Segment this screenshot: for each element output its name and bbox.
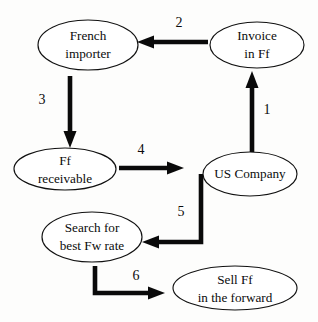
node-sell-ff-forward[interactable]: Sell Ff in the forward — [173, 266, 297, 310]
node-invoice-in-ff[interactable]: Invoice in Ff — [210, 22, 304, 68]
edge-2-step-label: 2 — [176, 15, 183, 30]
node-search-best-fw-rate-label-line1: Search for — [65, 220, 120, 235]
edge-6-step-label: 6 — [133, 268, 140, 283]
node-us-company-label-line1: US Company — [214, 166, 286, 181]
node-us-company[interactable]: US Company — [203, 152, 297, 196]
node-search-best-fw-rate-label-line2: best Fw rate — [60, 238, 125, 253]
node-french-importer-label-line2: importer — [65, 46, 111, 61]
edge-1-arrowhead — [246, 71, 259, 88]
node-invoice-in-ff-label-line2: in Ff — [244, 46, 270, 61]
node-search-best-fw-rate[interactable]: Search for best Fw rate — [42, 212, 142, 262]
edge-6-arrowhead — [148, 287, 165, 300]
edge-4-step-label: 4 — [138, 142, 145, 157]
edge-2-arrowhead — [137, 36, 154, 49]
flow-diagram-container: 1 2 3 4 5 6 — [0, 0, 318, 322]
edge-5-us-company-to-search: 5 — [142, 174, 201, 249]
edge-3-french-importer-to-ff-receivable: 3 — [39, 76, 77, 148]
node-ff-receivable[interactable]: Ff receivable — [14, 148, 116, 190]
edge-5-arrowhead — [142, 236, 159, 249]
flow-diagram-canvas: 1 2 3 4 5 6 — [0, 0, 318, 322]
edge-4-arrowhead — [167, 162, 184, 175]
node-french-importer-label-line1: French — [70, 28, 107, 43]
node-sell-ff-forward-label-line2: in the forward — [198, 290, 273, 305]
edge-1-us-company-to-invoice: 1 — [246, 71, 271, 152]
node-invoice-in-ff-label-line1: Invoice — [237, 28, 277, 43]
edge-3-arrowhead — [64, 131, 77, 148]
node-sell-ff-forward-label-line1: Sell Ff — [217, 272, 253, 287]
edge-2-invoice-to-french-importer: 2 — [137, 15, 208, 48]
edge-6-search-to-sell-ff-forward: 6 — [95, 266, 165, 300]
node-ff-receivable-label-line2: receivable — [38, 171, 92, 186]
edge-3-step-label: 3 — [39, 92, 46, 107]
edge-6-elbow-line — [95, 266, 151, 293]
node-french-importer[interactable]: French importer — [38, 20, 138, 70]
edge-4-ff-receivable-to-us-company: 4 — [119, 142, 184, 174]
edge-5-step-label: 5 — [178, 204, 185, 219]
node-ff-receivable-label-line1: Ff — [59, 153, 71, 168]
edge-1-step-label: 1 — [264, 102, 271, 117]
